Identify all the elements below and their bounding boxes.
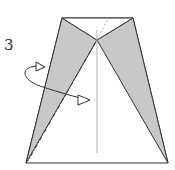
origami-diagram — [0, 0, 175, 170]
